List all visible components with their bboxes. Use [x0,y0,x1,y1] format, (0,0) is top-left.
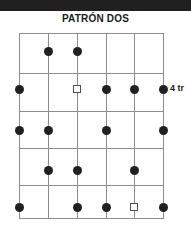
dot-marker-c4r3 [102,126,111,135]
dot-marker-c2r4 [44,166,53,175]
dot-marker-c5r2 [130,85,139,94]
grid-line-horizontal-2 [19,73,164,74]
dot-marker-c6r5 [159,203,168,212]
dot-marker-c6r3 [159,126,168,135]
dot-marker-c1r5 [15,203,24,212]
dot-marker-c1r3 [15,126,24,135]
side-label: 4 tr [170,83,184,93]
figure-container: PATRÓN DOS 4 tr [0,0,191,241]
dot-marker-c3r4 [73,166,82,175]
dot-marker-c4r5 [102,203,111,212]
grid-line-horizontal-1 [19,33,164,34]
grid-line-horizontal-5 [19,185,164,186]
grid-line-vertical-5 [134,33,135,218]
dot-marker-c2r3 [44,126,53,135]
grid-line-horizontal-6 [19,218,164,219]
grid-line-horizontal-4 [19,148,164,149]
grid-line-vertical-3 [77,33,78,218]
square-marker-c5r5 [130,203,138,211]
dot-marker-c3r5 [73,203,82,212]
square-marker-c3r2 [73,85,81,93]
dot-marker-c1r2 [15,85,24,94]
dot-marker-c3r1 [73,47,82,56]
pattern-grid [0,0,191,241]
grid-line-horizontal-3 [19,111,164,112]
dot-marker-c4r2 [102,85,111,94]
dot-marker-c2r1 [44,47,53,56]
dot-marker-c5r4 [130,166,139,175]
dot-marker-c6r2 [159,85,168,94]
